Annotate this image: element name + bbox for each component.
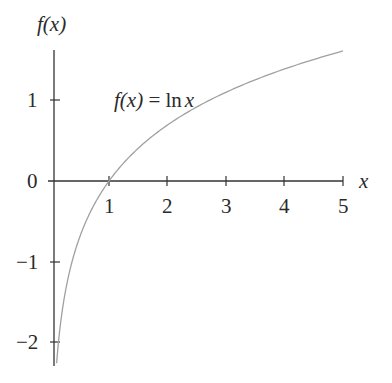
- annotation-eq: = ln: [143, 88, 182, 112]
- xtick-label-3: 3: [221, 194, 232, 218]
- ln-curve: [57, 51, 343, 363]
- ytick-label-0: 0: [27, 169, 38, 193]
- ytick-label-m2: −2: [16, 330, 38, 354]
- xtick-label-2: 2: [162, 194, 173, 218]
- ytick-label-m1: −1: [16, 250, 38, 274]
- y-ticks: [50, 100, 60, 342]
- y-axis-title: f(x): [37, 12, 66, 36]
- curve-annotation: f(x) = lnx: [114, 88, 195, 112]
- xtick-label-5: 5: [338, 194, 349, 218]
- ytick-label-1: 1: [27, 88, 38, 112]
- xtick-label-1: 1: [104, 194, 115, 218]
- annotation-x: x: [184, 88, 195, 112]
- xtick-label-4: 4: [279, 194, 290, 218]
- annotation-lhs: f(x): [114, 88, 143, 112]
- ln-chart: f(x) x 1 0 −1 −2 1 2 3 4 5 f(x) = lnx: [0, 0, 392, 383]
- x-axis-title: x: [358, 169, 369, 193]
